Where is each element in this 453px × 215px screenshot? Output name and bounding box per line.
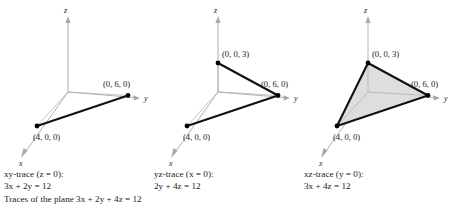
- traces-figure: z y x (0, 6, 0) (4, 0, 0): [0, 0, 453, 215]
- point-label-0-6-0-panel2: (0, 6, 0): [261, 79, 288, 89]
- z-axis-label-panel2: z: [213, 6, 218, 15]
- vertex-4-0-0-panel2: [185, 124, 190, 129]
- vertex-4-0-0-panel3: [335, 124, 340, 129]
- vertex-0-0-3-panel3: [366, 61, 371, 66]
- caption-xy-trace-line2: 3x + 2y = 12: [4, 180, 64, 192]
- vertex-4-0-0-panel1: [35, 124, 40, 129]
- caption-xz-trace-line2: 3x + 4z = 12: [304, 180, 364, 192]
- figure-canvas: z y x (0, 6, 0) (4, 0, 0): [0, 0, 453, 215]
- vertex-0-6-0-panel2: [276, 93, 281, 98]
- point-label-0-6-0-panel3: (0, 6, 0): [411, 79, 438, 89]
- point-label-0-0-3-panel3: (0, 0, 3): [372, 49, 399, 59]
- x-axis-label-panel3: x: [318, 159, 323, 168]
- panel-xz-trace: z y x (0, 0, 3) (0, 6, 0) (4, 0, 0): [318, 6, 448, 168]
- panel-xy-trace: z y x (0, 6, 0) (4, 0, 0): [18, 6, 148, 168]
- point-label-4-0-0-panel3: (4, 0, 0): [333, 132, 360, 142]
- point-label-4-0-0-panel2: (4, 0, 0): [183, 132, 210, 142]
- caption-yz-trace-line2: 2y + 4z = 12: [154, 180, 214, 192]
- y-axis-label-panel1: y: [143, 94, 148, 103]
- z-axis-label-panel1: z: [63, 6, 68, 15]
- vertex-0-6-0-panel1: [126, 93, 131, 98]
- point-label-0-6-0-panel1: (0, 6, 0): [103, 79, 130, 89]
- figure-caption: Traces of the plane 3x + 2y + 4z = 12: [4, 193, 142, 205]
- x-axis-label-panel1: x: [18, 159, 23, 168]
- panel-yz-trace: z y x (0, 0, 3) (0, 6, 0) (4, 0, 0): [168, 6, 298, 168]
- point-label-4-0-0-panel1: (4, 0, 0): [33, 132, 60, 142]
- helper-origin-to-y-panel2: [218, 92, 278, 96]
- x-axis-panel1: [21, 92, 68, 158]
- point-label-0-0-3-panel2: (0, 0, 3): [222, 49, 249, 59]
- z-axis-label-panel3: z: [363, 6, 368, 15]
- x-axis-label-panel2: x: [168, 159, 173, 168]
- y-axis-label-panel3: y: [443, 94, 448, 103]
- caption-xz-trace: xz-trace (y = 0): 3x + 4z = 12: [304, 168, 364, 193]
- x-axis-panel2: [171, 92, 218, 158]
- vertex-0-0-3-panel2: [216, 61, 221, 66]
- caption-yz-trace-line1: yz-trace (x = 0):: [154, 168, 214, 180]
- caption-xy-trace: xy-trace (z = 0): 3x + 2y = 12: [4, 168, 64, 193]
- y-axis-label-panel2: y: [293, 94, 298, 103]
- caption-yz-trace: yz-trace (x = 0): 2y + 4z = 12: [154, 168, 214, 193]
- z-axis-panel1: [65, 16, 70, 92]
- helper-origin-to-y-panel1: [68, 92, 128, 96]
- vertex-0-6-0-panel3: [426, 93, 431, 98]
- caption-xy-trace-line1: xy-trace (z = 0):: [4, 168, 64, 180]
- caption-xz-trace-line1: xz-trace (y = 0):: [304, 168, 364, 180]
